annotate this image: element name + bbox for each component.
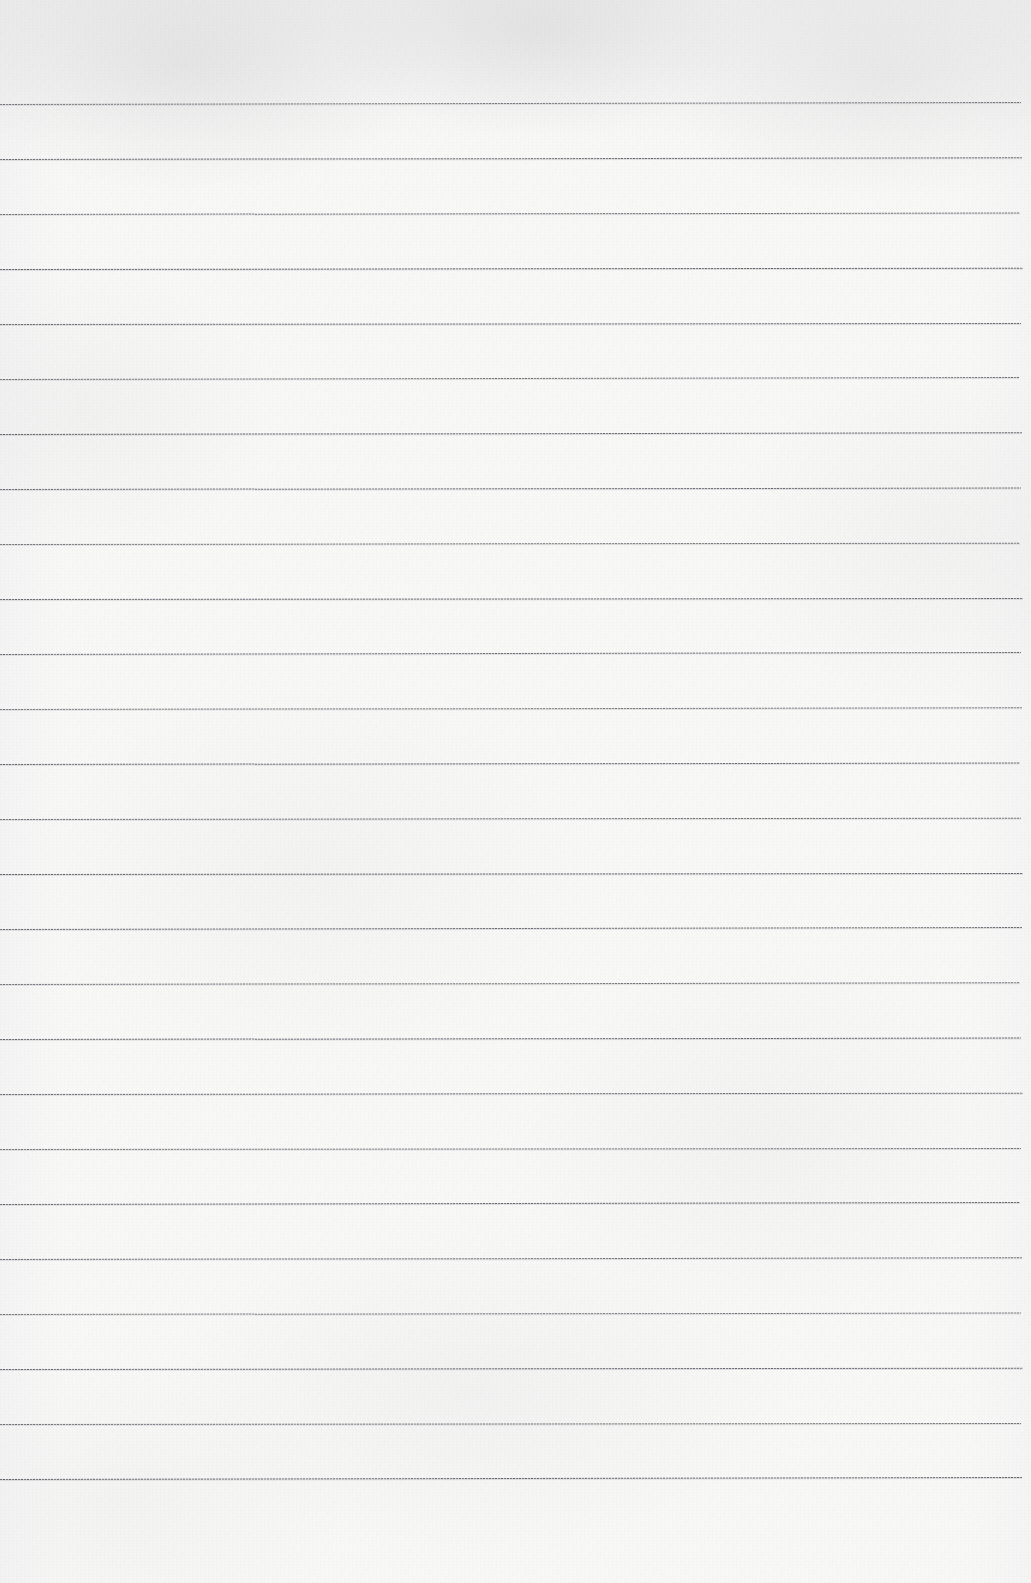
rule-line (0, 707, 1022, 710)
rule-line (0, 927, 1022, 930)
rule-line (0, 102, 1021, 105)
rule-line (0, 543, 1020, 545)
rule-line (0, 598, 1023, 600)
rule-line (0, 1423, 1021, 1425)
rule-line (0, 1093, 1023, 1095)
rule-line (0, 323, 1021, 325)
rule-line (0, 1477, 1022, 1480)
rule-line (0, 762, 1020, 765)
ruled-lines-layer (0, 0, 1031, 1583)
rule-line (0, 818, 1021, 820)
scanned-page (0, 0, 1031, 1583)
rule-line (0, 652, 1021, 655)
rule-line (0, 1312, 1021, 1315)
rule-line (0, 157, 1022, 160)
rule-line (0, 873, 1023, 875)
rule-line (0, 212, 1020, 215)
rule-line (0, 1148, 1021, 1150)
rule-line (0, 268, 1023, 270)
rule-line (0, 1202, 1020, 1205)
rule-line (0, 1257, 1022, 1260)
rule-line (0, 377, 1019, 380)
rule-line (0, 487, 1021, 490)
rule-line (0, 432, 1022, 435)
rule-line (0, 1037, 1021, 1040)
rule-line (0, 982, 1020, 985)
rule-line (0, 1368, 1023, 1370)
